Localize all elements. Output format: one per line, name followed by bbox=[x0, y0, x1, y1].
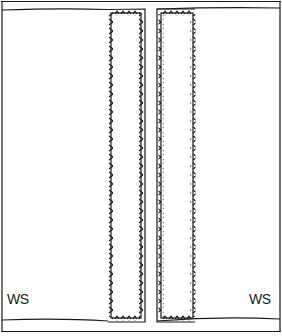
wrong-side-label-left: WS bbox=[7, 291, 29, 307]
sewing-diagram bbox=[0, 0, 282, 336]
right-strip bbox=[157, 9, 196, 322]
left-strip bbox=[108, 9, 145, 322]
wrong-side-label-right: WS bbox=[249, 291, 271, 307]
